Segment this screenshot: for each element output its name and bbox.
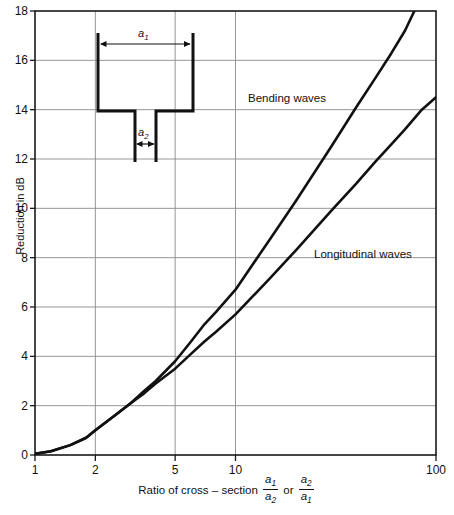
y-tick-label: 2 xyxy=(2,399,28,413)
x-tick-label: 10 xyxy=(229,463,242,477)
y-tick-label: 0 xyxy=(2,448,28,462)
fraction-numerator: a2 xyxy=(299,473,314,490)
x-tick-label: 5 xyxy=(172,463,179,477)
x-axis-title-conjunction: or xyxy=(283,484,293,496)
duct-cross-section-diagram xyxy=(98,33,193,162)
inset-label-a2: a2 xyxy=(138,126,149,141)
series-line-bending-waves xyxy=(35,11,414,454)
y-tick-label: 10 xyxy=(2,201,28,215)
x-tick-label: 2 xyxy=(92,463,99,477)
y-tick-label: 18 xyxy=(2,4,28,18)
y-tick-label: 12 xyxy=(2,152,28,166)
inset-dimension-subscript: 2 xyxy=(144,132,148,141)
x-axis-fraction-a1-over-a2: a1 a2 xyxy=(263,473,278,506)
inset-label-a1: a1 xyxy=(138,27,149,42)
y-tick-label: 6 xyxy=(2,300,28,314)
y-tick-label: 14 xyxy=(2,103,28,117)
fraction-denominator: a2 xyxy=(263,490,278,506)
x-axis-fraction-a2-over-a1: a2 a1 xyxy=(299,473,314,506)
inset-dimension-subscript: 1 xyxy=(144,33,148,42)
fraction-numerator: a1 xyxy=(263,473,278,490)
duct-outline xyxy=(98,33,193,162)
x-axis-title: Ratio of cross – section a1 a2 or a2 a1 xyxy=(0,473,454,506)
x-tick-label: 100 xyxy=(426,463,446,477)
chart-figure: Reduction in dB Ratio of cross – section… xyxy=(0,0,454,515)
curve-annotation-bending-waves: Bending waves xyxy=(248,92,326,104)
curve-annotation-longitudinal-waves: Longitudinal waves xyxy=(314,248,412,260)
x-tick-label: 1 xyxy=(32,463,39,477)
y-tick-label: 16 xyxy=(2,53,28,67)
fraction-denominator: a1 xyxy=(299,490,314,506)
y-tick-label: 8 xyxy=(2,251,28,265)
x-axis-title-prefix: Ratio of cross – section xyxy=(138,484,258,496)
y-tick-label: 4 xyxy=(2,349,28,363)
